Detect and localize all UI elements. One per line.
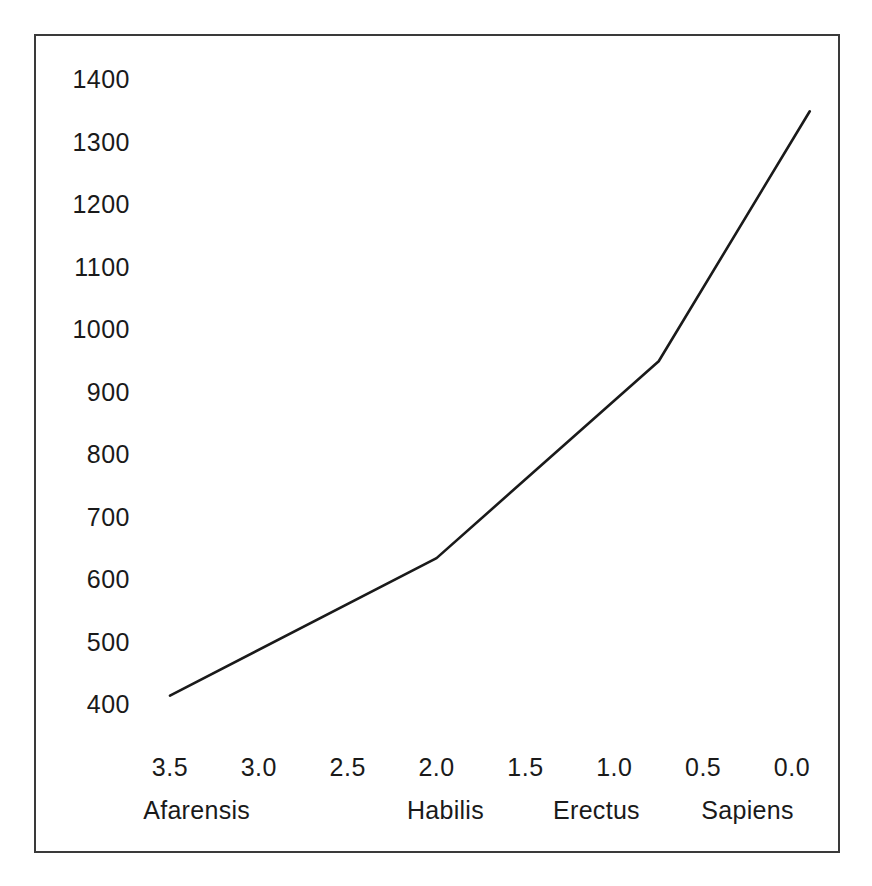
- x-axis-tick-label: 3.0: [224, 755, 294, 780]
- x-axis-tick-label: 3.5: [135, 755, 205, 780]
- y-axis-tick-label: 1300: [44, 130, 130, 155]
- y-axis-tick-label: 400: [44, 692, 130, 717]
- y-axis-tick-label: 1100: [44, 255, 130, 280]
- y-axis-tick-label: 900: [44, 380, 130, 405]
- y-axis-tick-label: 800: [44, 442, 130, 467]
- y-axis-tick-label: 1000: [44, 317, 130, 342]
- y-axis-tick-label: 1400: [44, 67, 130, 92]
- chart-frame: [34, 34, 840, 853]
- y-axis-tick-label: 700: [44, 505, 130, 530]
- x-axis-tick-label: 0.0: [757, 755, 827, 780]
- x-axis-tick-label: 2.5: [313, 755, 383, 780]
- x-axis-group-label: Sapiens: [658, 797, 838, 824]
- y-axis-tick-label: 1200: [44, 192, 130, 217]
- x-axis-tick-label: 1.0: [579, 755, 649, 780]
- y-axis-tick-label: 600: [44, 567, 130, 592]
- chart-page: 14001300120011001000900800700600500400 3…: [0, 0, 872, 886]
- y-axis-tick-label: 500: [44, 630, 130, 655]
- x-axis-tick-label: 0.5: [668, 755, 738, 780]
- x-axis-group-label: Afarensis: [107, 797, 287, 824]
- x-axis-tick-label: 2.0: [402, 755, 472, 780]
- x-axis-tick-label: 1.5: [490, 755, 560, 780]
